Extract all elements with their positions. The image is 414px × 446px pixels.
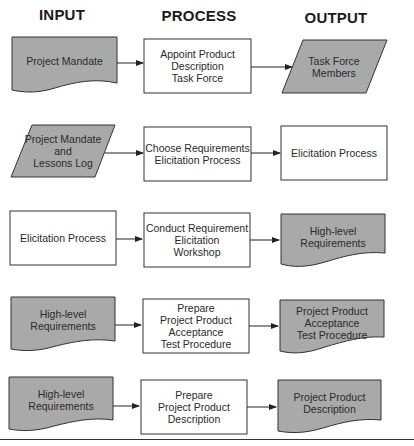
row3-process-box [144, 213, 250, 267]
row1-input-document-shape [12, 37, 117, 92]
row2-process-box [144, 127, 251, 181]
bottom-divider [0, 439, 414, 440]
row4-process-box [143, 299, 249, 353]
row5-input-document-shape [9, 377, 113, 431]
row3-output-document-shape [281, 214, 385, 266]
row2-input-parallelogram-shape [11, 125, 115, 177]
row4-input-document-shape [11, 297, 115, 351]
row4-output-document-shape [280, 300, 384, 353]
row1-output-parallelogram-shape [282, 40, 387, 93]
flow-diagram [0, 0, 414, 446]
row3-input-box [10, 211, 116, 265]
row5-process-box [141, 380, 247, 434]
row2-output-box [281, 126, 387, 180]
row5-output-document-shape [278, 380, 381, 433]
row1-process-box [144, 39, 251, 93]
